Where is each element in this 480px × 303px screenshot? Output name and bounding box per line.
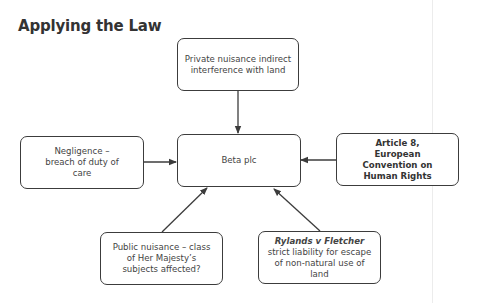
node-rylands-v-fletcher-label: Rylands v Fletcher strict liability for … — [264, 236, 375, 280]
node-beta-plc: Beta plc — [177, 134, 301, 187]
node-private-nuisance-label: Private nuisance indirect interference w… — [184, 54, 292, 76]
node-negligence-label: Negligence – breach of duty of care — [43, 146, 121, 179]
node-private-nuisance: Private nuisance indirect interference w… — [177, 38, 299, 91]
node-public-nuisance: Public nuisance – class of Her Majesty’s… — [100, 232, 223, 285]
case-description: strict liability for escape of non-natur… — [268, 247, 372, 279]
node-rylands-v-fletcher: Rylands v Fletcher strict liability for … — [258, 231, 381, 284]
node-public-nuisance-label: Public nuisance – class of Her Majesty’s… — [111, 242, 212, 275]
node-article-8-echr: Article 8, European Convention on Human … — [336, 133, 459, 186]
case-name: Rylands v Fletcher — [275, 236, 364, 246]
node-beta-plc-label: Beta plc — [221, 155, 256, 166]
node-negligence: Negligence – breach of duty of care — [20, 136, 144, 189]
node-article-8-echr-label: Article 8, European Convention on Human … — [351, 138, 444, 182]
edge-bottom-left-to-center — [162, 188, 207, 232]
edge-bottom-right-to-center — [274, 189, 320, 231]
